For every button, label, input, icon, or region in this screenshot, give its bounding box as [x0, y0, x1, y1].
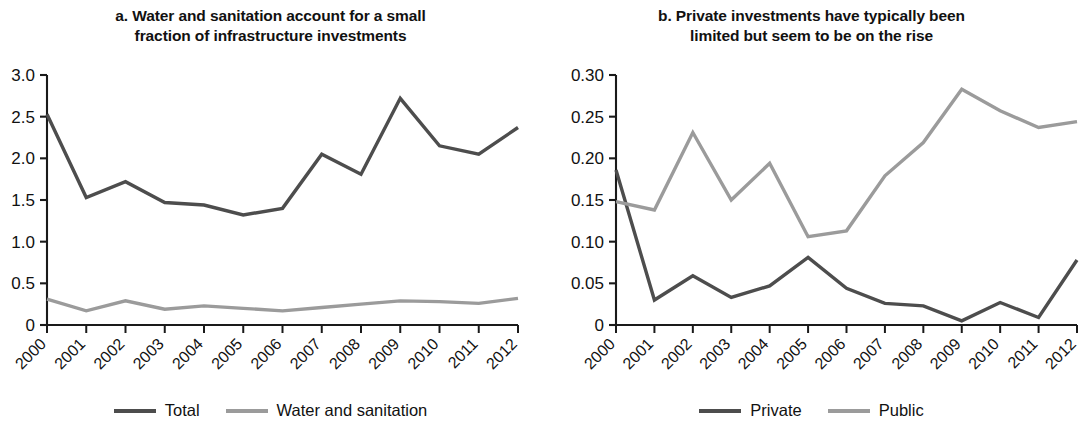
legend-entry-total: Total — [114, 401, 200, 420]
series-line-total — [47, 98, 518, 215]
x-tick-label: 2007 — [287, 335, 324, 372]
panel-b: b. Private investments have typically be… — [541, 0, 1082, 422]
panel-a-svg: 00.51.01.52.02.53.0200020012002200320042… — [0, 0, 541, 400]
x-tick-label: 2003 — [696, 335, 733, 372]
series-line-public — [616, 89, 1077, 237]
x-tick-label: 2012 — [483, 335, 520, 372]
x-tick-label: 2006 — [811, 335, 848, 372]
y-tick-label: 0.10 — [571, 233, 604, 252]
legend-entry-water-and-sanitation: Water and sanitation — [226, 401, 428, 420]
y-tick-label: 0.30 — [571, 66, 604, 85]
y-tick-label: 2.5 — [11, 108, 35, 127]
x-tick-label: 2004 — [169, 335, 206, 372]
legend-swatch-public — [828, 409, 870, 413]
x-tick-label: 2009 — [365, 335, 402, 372]
x-tick-label: 2010 — [404, 335, 441, 372]
legend-label-total: Total — [165, 401, 200, 420]
y-tick-label: 1.0 — [11, 233, 35, 252]
x-tick-label: 2001 — [619, 335, 656, 372]
x-tick-label: 2008 — [326, 335, 363, 372]
legend-label-private: Private — [750, 401, 801, 420]
y-tick-label: 0.15 — [571, 191, 604, 210]
panel-b-legend: Private Public — [541, 401, 1082, 420]
x-tick-label: 2009 — [927, 335, 964, 372]
x-tick-label: 2006 — [247, 335, 284, 372]
y-tick-label: 0 — [26, 316, 35, 335]
legend-entry-public: Public — [828, 401, 924, 420]
y-tick-label: 1.5 — [11, 191, 35, 210]
x-tick-label: 2001 — [51, 335, 88, 372]
legend-swatch-private — [699, 409, 741, 413]
y-tick-label: 0.05 — [571, 274, 604, 293]
series-line-private — [616, 170, 1077, 321]
x-tick-label: 2007 — [850, 335, 887, 372]
x-tick-label: 2004 — [735, 335, 772, 372]
panel-a-plot: 00.51.01.52.02.53.0200020012002200320042… — [0, 0, 541, 422]
x-tick-label: 2010 — [965, 335, 1002, 372]
panel-a-legend: Total Water and sanitation — [0, 401, 541, 420]
x-tick-label: 2002 — [90, 335, 127, 372]
legend-swatch-total — [114, 409, 156, 413]
x-tick-label: 2012 — [1042, 335, 1079, 372]
x-tick-label: 2000 — [581, 335, 618, 372]
series-line-water-and-sanitation — [47, 298, 518, 311]
y-tick-label: 2.0 — [11, 149, 35, 168]
y-tick-label: 0 — [595, 316, 604, 335]
x-tick-label: 2005 — [208, 335, 245, 372]
x-tick-label: 2005 — [773, 335, 810, 372]
y-tick-label: 0.25 — [571, 108, 604, 127]
legend-entry-private: Private — [699, 401, 801, 420]
legend-label-public: Public — [879, 401, 924, 420]
figure-container: a. Water and sanitation account for a sm… — [0, 0, 1082, 422]
panel-a: a. Water and sanitation account for a sm… — [0, 0, 541, 422]
x-tick-label: 2008 — [888, 335, 925, 372]
y-tick-label: 0.20 — [571, 149, 604, 168]
panel-b-svg: 00.050.100.150.200.250.30200020012002200… — [541, 0, 1082, 400]
x-tick-label: 2003 — [130, 335, 167, 372]
x-tick-label: 2000 — [12, 335, 49, 372]
legend-label-water-and-sanitation: Water and sanitation — [277, 401, 428, 420]
legend-swatch-water-and-sanitation — [226, 409, 268, 413]
y-tick-label: 3.0 — [11, 66, 35, 85]
x-tick-label: 2002 — [658, 335, 695, 372]
x-tick-label: 2011 — [1004, 335, 1040, 371]
y-tick-label: 0.5 — [11, 274, 35, 293]
panel-b-plot: 00.050.100.150.200.250.30200020012002200… — [541, 0, 1082, 422]
x-tick-label: 2011 — [445, 335, 481, 371]
